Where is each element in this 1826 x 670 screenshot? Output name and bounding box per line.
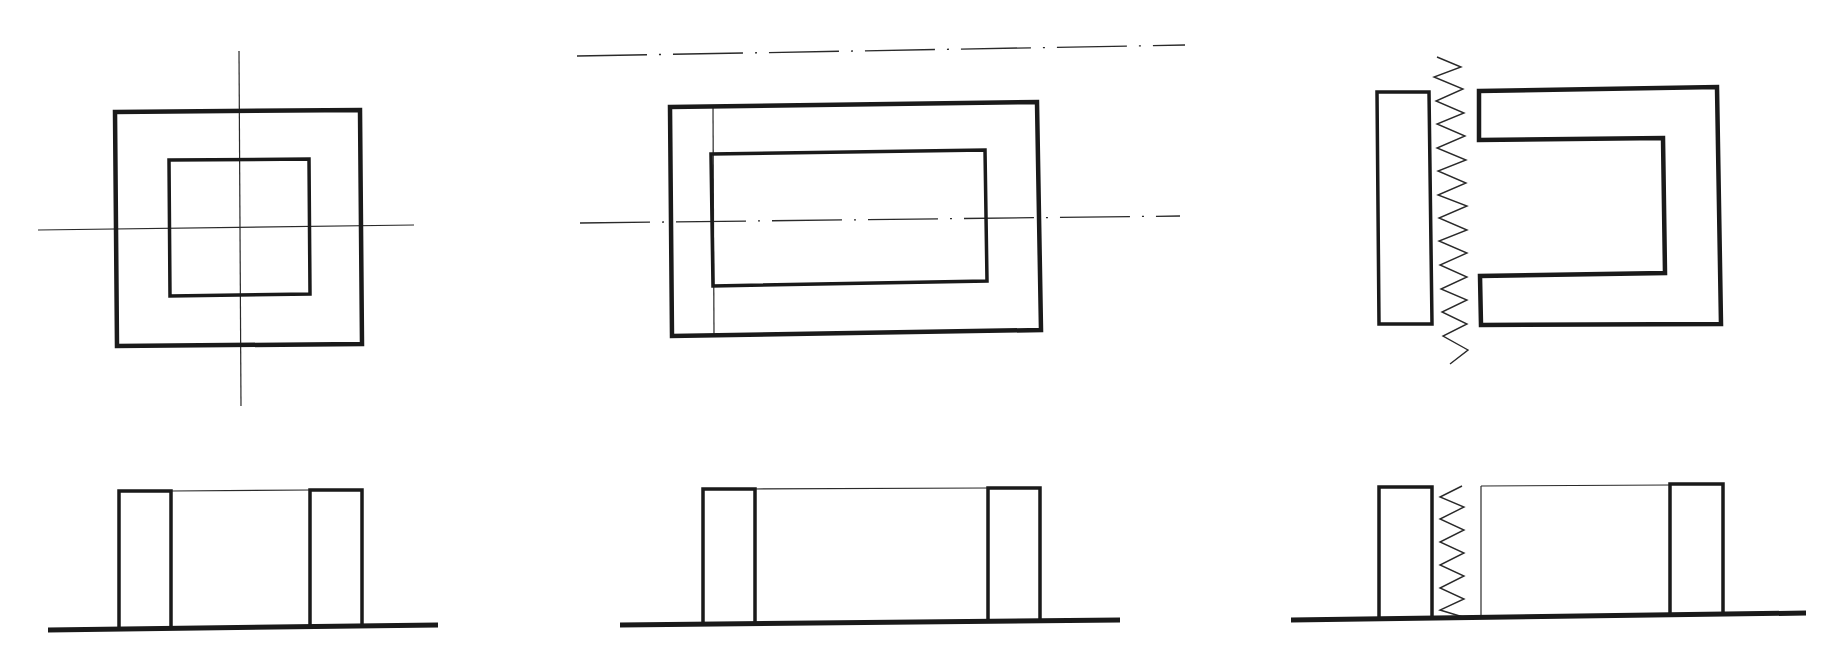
fig3-side-right-post xyxy=(1670,484,1723,614)
figure-2-side-view xyxy=(620,488,1120,625)
fig1-ground-line xyxy=(48,625,438,630)
fig1-vertical-centerline xyxy=(239,51,241,406)
fig1-side-right-post xyxy=(310,490,362,626)
fig3-c-core xyxy=(1479,87,1721,325)
fig1-side-left-post xyxy=(119,491,171,627)
fig2-inner-rectangle xyxy=(711,150,987,286)
fig3-side-winding-zigzag xyxy=(1440,486,1464,617)
fig3-side-left-post xyxy=(1379,487,1432,618)
fig2-side-left-post xyxy=(703,489,755,624)
figure-3-plan-view xyxy=(1377,57,1721,364)
fig3-side-top-edge xyxy=(1481,485,1670,486)
diagram-svg xyxy=(0,0,1826,670)
figure-1-side-view xyxy=(48,490,438,630)
fig3-winding-zigzag xyxy=(1434,57,1468,364)
fig2-ground-line xyxy=(620,620,1120,625)
fig1-horizontal-centerline xyxy=(38,225,414,230)
fig1-side-top-edge xyxy=(171,490,310,491)
fig2-side-right-post xyxy=(988,488,1040,622)
fig2-side-top-edge xyxy=(755,488,988,489)
fig3-i-bar xyxy=(1377,92,1432,324)
figure-3-side-view xyxy=(1291,484,1806,620)
diagram-canvas xyxy=(0,0,1826,670)
figure-2-plan-view xyxy=(577,45,1185,336)
figure-1-plan-view xyxy=(38,51,414,406)
fig2-top-axis-line xyxy=(577,45,1185,56)
fig3-ground-line xyxy=(1291,613,1806,620)
